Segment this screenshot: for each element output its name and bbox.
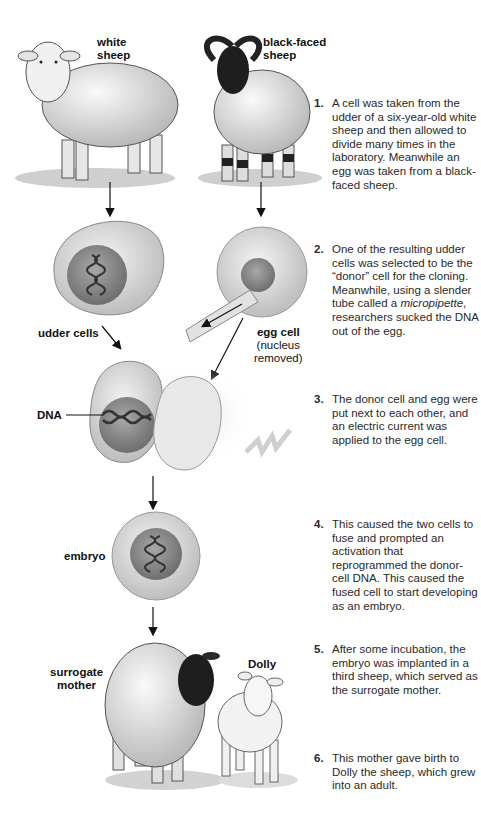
label-embryo: embryo <box>64 550 106 563</box>
step-4: 4. This caused the two cells to fuse and… <box>332 518 480 613</box>
embryo-illustration <box>112 512 200 600</box>
step-5: 5. After some incubation, the embryo was… <box>332 643 480 697</box>
step-2: 2. One of the resulting udder cells was … <box>332 243 480 338</box>
label-white-sheep: white sheep <box>97 36 130 62</box>
udder-cell-illustration <box>54 221 164 315</box>
egg-cell-illustration <box>186 227 307 342</box>
label-udder-cells: udder cells <box>38 327 99 340</box>
dolly-lamb-illustration <box>218 672 298 788</box>
label-egg-cell: egg cell (nucleus removed) <box>254 326 303 365</box>
step-1: 1. A cell was taken from the udder of a … <box>332 97 480 192</box>
surrogate-mother-illustration <box>105 643 225 790</box>
label-dolly: Dolly <box>248 658 276 671</box>
fused-cells-illustration <box>66 360 255 470</box>
label-surrogate-mother: surrogate mother <box>50 666 103 692</box>
electric-current-icon <box>246 430 290 452</box>
step-6: 6. This mother gave birth to Dolly the s… <box>332 752 480 793</box>
white-sheep-illustration <box>15 42 178 188</box>
label-black-faced-sheep: black-faced sheep <box>263 36 326 62</box>
label-dna: DNA <box>37 409 62 422</box>
step-3: 3. The donor cell and egg were put next … <box>332 393 480 447</box>
